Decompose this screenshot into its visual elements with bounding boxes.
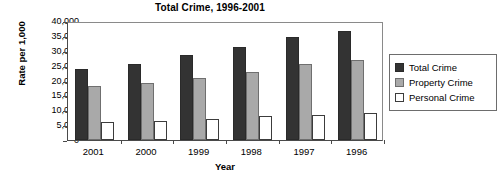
x-tick-mark	[173, 140, 174, 144]
legend-item[interactable]: Total Crime	[395, 60, 492, 75]
bar	[75, 69, 88, 140]
plot-inner	[68, 23, 382, 140]
x-tick-label: 1996	[327, 146, 387, 157]
bar	[259, 116, 272, 140]
x-tick-mark	[279, 140, 280, 144]
legend-swatch-icon	[395, 78, 404, 87]
bar	[351, 60, 364, 140]
legend-label: Personal Crime	[409, 92, 474, 103]
bar	[180, 55, 193, 140]
bar	[193, 78, 206, 140]
bar	[206, 119, 219, 140]
bar	[101, 122, 114, 140]
bar	[312, 115, 325, 140]
x-tick-label: 1999	[169, 146, 229, 157]
x-tick-mark	[384, 140, 385, 144]
plot-area	[67, 22, 383, 141]
x-tick-mark	[331, 140, 332, 144]
bar	[154, 121, 167, 140]
bar	[233, 47, 246, 140]
legend-label: Total Crime	[409, 62, 457, 73]
bar	[286, 37, 299, 140]
bar	[299, 64, 312, 140]
legend-swatch-icon	[395, 63, 404, 72]
bar	[338, 31, 351, 140]
x-axis-title: Year	[67, 161, 383, 172]
legend-item[interactable]: Property Crime	[395, 75, 492, 90]
bar	[141, 83, 154, 140]
bar	[88, 86, 101, 140]
legend-label: Property Crime	[409, 77, 473, 88]
bar	[128, 64, 141, 140]
x-tick-label: 2000	[116, 146, 176, 157]
y-tick-mark	[63, 141, 67, 142]
x-tick-label: 1998	[221, 146, 281, 157]
legend-swatch-icon	[395, 93, 404, 102]
legend: Total CrimeProperty CrimePersonal Crime	[389, 54, 497, 111]
x-tick-label: 2001	[63, 146, 123, 157]
x-tick-mark	[226, 140, 227, 144]
bar	[246, 72, 259, 140]
crime-bar-chart: Total Crime, 1996-2001 Rate per 1,000 40…	[0, 0, 503, 182]
chart-title: Total Crime, 1996-2001	[0, 2, 420, 13]
x-tick-label: 1997	[274, 146, 334, 157]
bar	[364, 113, 377, 140]
x-tick-mark	[121, 140, 122, 144]
legend-item[interactable]: Personal Crime	[395, 90, 492, 105]
